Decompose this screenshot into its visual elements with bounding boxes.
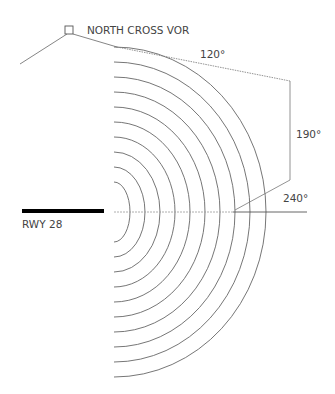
bearing-120-label: 120° [200,48,225,60]
vor-label: NORTH CROSS VOR [87,24,189,36]
vor-station-icon [65,26,73,34]
bearing-240-label: 240° [283,192,308,204]
bearing-190-label: 190° [296,128,321,140]
vor-radial-left [20,34,67,64]
runway-label: RWY 28 [22,218,62,230]
runway-bar [22,209,104,213]
leg-240 [235,180,290,210]
